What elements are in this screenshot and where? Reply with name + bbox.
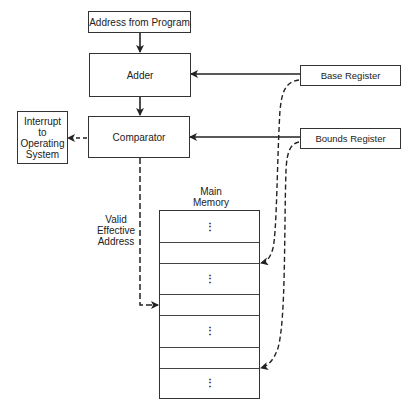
memory-cell-7: ⋮: [160, 368, 259, 398]
interrupt-label-line4: System: [26, 149, 59, 160]
main-memory-block: ⋮ ⋮ ⋮ ⋮: [159, 210, 260, 399]
valid-effective-address-label: Valid Effective Address: [91, 214, 141, 247]
base-register-box: Base Register: [300, 65, 401, 86]
arrow-bounds-to-memory: [261, 142, 299, 368]
memory-cell-6: [160, 347, 259, 369]
memory-cell-2: [160, 242, 259, 264]
interrupt-label-line1: Interrupt: [24, 116, 61, 127]
vea-line2: Effective: [91, 225, 141, 236]
vea-line3: Address: [91, 236, 141, 247]
bounds-register-box: Bounds Register: [300, 128, 401, 149]
arrow-base-to-memory: [261, 80, 299, 263]
main-memory-title-line1: Main: [186, 186, 236, 197]
comparator-box: Comparator: [88, 116, 190, 158]
ellipsis-icon: ⋮: [205, 225, 215, 229]
interrupt-label-line3: Operating: [21, 138, 65, 149]
address-from-program-box: Address from Program: [88, 11, 191, 33]
address-from-program-label: Address from Program: [89, 17, 190, 28]
comparator-label: Comparator: [113, 132, 166, 143]
ellipsis-icon: ⋮: [205, 277, 215, 281]
adder-box: Adder: [89, 53, 191, 97]
memory-cell-5: ⋮: [160, 315, 259, 348]
main-memory-title-line2: Memory: [186, 197, 236, 208]
memory-cell-1: ⋮: [160, 211, 259, 243]
bounds-register-label: Bounds Register: [315, 133, 385, 144]
ellipsis-icon: ⋮: [205, 329, 215, 333]
vea-line1: Valid: [91, 214, 141, 225]
main-memory-title: Main Memory: [186, 186, 236, 208]
ellipsis-icon: ⋮: [205, 381, 215, 385]
memory-cell-4: [160, 294, 259, 316]
memory-cell-3: ⋮: [160, 263, 259, 295]
arrow-valid-effective-address: [140, 158, 158, 305]
adder-label: Adder: [127, 70, 154, 81]
interrupt-label-line2: to: [38, 127, 46, 138]
base-register-label: Base Register: [321, 70, 381, 81]
interrupt-box: Interrupt to Operating System: [17, 111, 68, 164]
